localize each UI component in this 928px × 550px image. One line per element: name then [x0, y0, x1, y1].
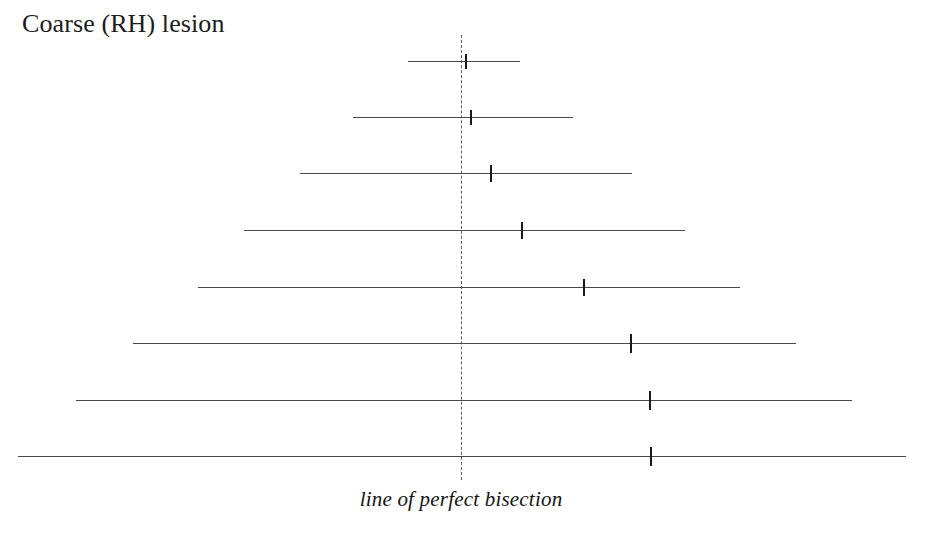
- bisection-mark: [630, 334, 632, 353]
- bisection-mark: [490, 165, 492, 182]
- stimulus-line: [76, 400, 852, 401]
- bisection-mark: [521, 222, 523, 239]
- stimulus-line: [353, 117, 573, 118]
- bisection-mark: [465, 54, 467, 69]
- stimulus-line: [133, 343, 796, 344]
- stimulus-line: [300, 173, 632, 174]
- stimulus-line: [18, 456, 906, 457]
- bisection-mark: [649, 391, 651, 410]
- bisection-mark: [650, 447, 652, 466]
- figure-root: Coarse (RH) lesion line of perfect bisec…: [0, 0, 928, 550]
- stimulus-line: [408, 61, 520, 62]
- stimulus-line: [198, 287, 740, 288]
- bisection-mark: [470, 110, 472, 125]
- line-of-perfect-bisection: [461, 35, 462, 480]
- bisection-plot-area: [0, 0, 928, 550]
- stimulus-line: [244, 230, 685, 231]
- reference-line-caption: line of perfect bisection: [360, 486, 563, 512]
- bisection-mark: [583, 279, 585, 296]
